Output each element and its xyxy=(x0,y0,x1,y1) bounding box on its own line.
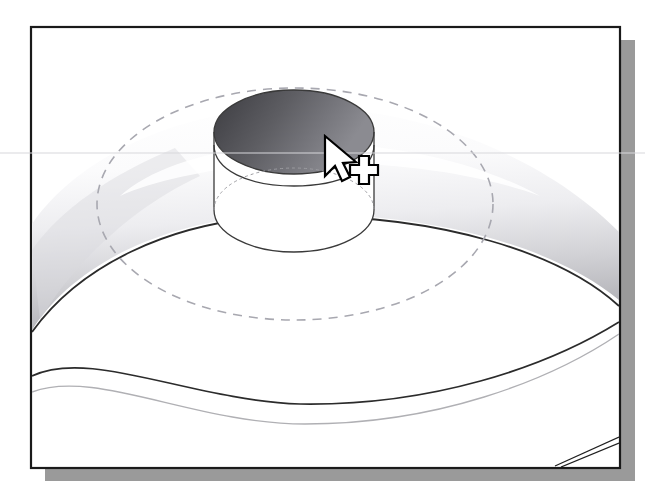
screenshot-root: CAD solid-modeling viewport illustration… xyxy=(0,0,645,497)
cad-scene xyxy=(0,0,645,497)
